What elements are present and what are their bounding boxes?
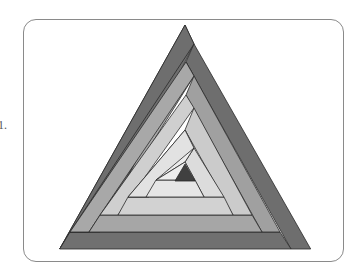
log-cabin-triangle-diagram xyxy=(0,0,364,277)
band3-bottom-strip xyxy=(118,197,233,215)
band4-bottom-strip xyxy=(146,180,204,197)
band2-bottom-strip xyxy=(89,215,262,232)
outer-bottom-strip xyxy=(60,232,291,249)
